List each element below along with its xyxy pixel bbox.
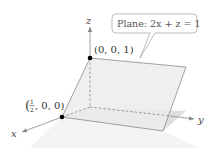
svg-text:, 0, 0): , 0, 0) xyxy=(35,100,64,111)
svg-text:2: 2 xyxy=(30,106,34,113)
x-axis-label: x xyxy=(11,128,17,139)
point-half-0-0 xyxy=(60,115,65,120)
z-axis-label: z xyxy=(85,15,92,26)
callout-text: Plane: 2x + z = 1 xyxy=(117,18,201,29)
svg-text:1: 1 xyxy=(30,98,34,105)
plane-diagram: z y x (0, 0, 1) ( 1 2 , 0, 0) Plane: 2x … xyxy=(0,0,216,148)
point-0-0-1-label: (0, 0, 1) xyxy=(94,44,134,55)
point-half-0-0-label: ( 1 2 , 0, 0) xyxy=(25,98,64,113)
point-0-0-1 xyxy=(88,56,93,61)
y-axis-label: y xyxy=(197,114,204,125)
